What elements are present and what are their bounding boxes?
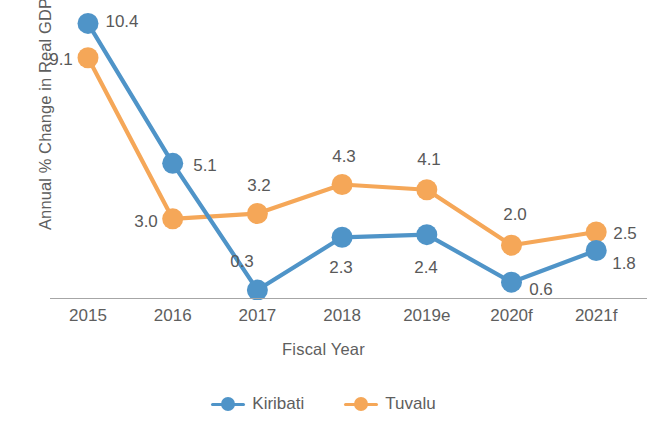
data-label-tuvalu: 4.3 <box>332 147 356 167</box>
data-point-marker[interactable] <box>247 203 268 224</box>
legend-dot-icon <box>221 397 235 411</box>
legend-item-tuvalu[interactable]: Tuvalu <box>344 394 435 414</box>
data-label-kiribati: 1.8 <box>612 254 636 274</box>
legend-marker-icon <box>344 396 378 412</box>
x-tick-label-2017: 2017 <box>212 306 302 326</box>
data-point-marker[interactable] <box>78 13 99 34</box>
legend-item-kiribati[interactable]: Kiribati <box>211 394 304 414</box>
data-label-tuvalu: 2.5 <box>613 224 637 244</box>
data-point-marker[interactable] <box>332 174 353 195</box>
x-tick-label-2019e: 2019e <box>382 306 472 326</box>
data-point-marker[interactable] <box>162 208 183 229</box>
plot-area <box>0 0 647 300</box>
data-point-marker[interactable] <box>501 272 522 293</box>
data-point-marker[interactable] <box>501 235 522 256</box>
data-label-tuvalu: 3.0 <box>134 212 158 232</box>
data-label-kiribati: 0.6 <box>529 280 553 300</box>
x-tick-label-2015: 2015 <box>43 306 133 326</box>
x-axis-tick-labels: 20152016201720182019e2020f2021f <box>0 306 647 334</box>
data-point-marker[interactable] <box>586 222 607 243</box>
gdp-line-chart: Annual % Change in Real GDP 10.45.10.32.… <box>0 0 647 423</box>
data-point-marker[interactable] <box>416 179 437 200</box>
data-point-marker[interactable] <box>247 280 268 300</box>
data-point-marker[interactable] <box>332 227 353 248</box>
x-axis-line <box>50 298 647 299</box>
data-point-marker[interactable] <box>416 224 437 245</box>
x-tick-label-2021f: 2021f <box>551 306 641 326</box>
data-label-kiribati: 5.1 <box>193 156 217 176</box>
legend-marker-icon <box>211 396 245 412</box>
x-tick-label-2018: 2018 <box>297 306 387 326</box>
x-axis-title: Fiscal Year <box>0 340 647 359</box>
data-label-tuvalu: 4.1 <box>417 150 441 170</box>
data-point-marker[interactable] <box>78 47 99 68</box>
data-label-tuvalu: 2.0 <box>503 205 527 225</box>
x-tick-label-2020f: 2020f <box>467 306 557 326</box>
legend-label: Tuvalu <box>385 394 435 414</box>
data-label-kiribati: 2.4 <box>414 258 438 278</box>
chart-legend: KiribatiTuvalu <box>0 394 647 414</box>
data-label-kiribati: 0.3 <box>230 252 254 272</box>
data-point-marker[interactable] <box>586 240 607 261</box>
data-label-tuvalu: 9.1 <box>49 50 73 70</box>
data-label-kiribati: 10.4 <box>105 12 138 32</box>
data-label-tuvalu: 3.2 <box>247 176 271 196</box>
plot-svg <box>0 0 647 300</box>
data-point-marker[interactable] <box>162 153 183 174</box>
legend-dot-icon <box>354 397 368 411</box>
x-tick-label-2016: 2016 <box>128 306 218 326</box>
legend-label: Kiribati <box>252 394 304 414</box>
data-label-kiribati: 2.3 <box>329 258 353 278</box>
